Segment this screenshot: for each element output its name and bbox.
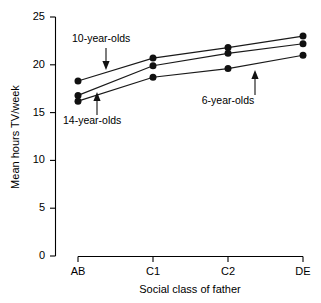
x-tick-label-de: DE <box>295 265 310 277</box>
data-point <box>300 52 307 59</box>
annotation-label-10-year-olds: 10-year-olds <box>72 32 130 44</box>
chart-container: 25 20 15 10 5 0 Mean hours TV/week AB C1… <box>0 0 321 303</box>
x-tick-label-c1: C1 <box>146 265 160 277</box>
data-point <box>150 62 157 69</box>
annotation-arrowhead-10 <box>102 61 109 70</box>
annotation-10-year-olds: 10-year-olds <box>72 32 130 70</box>
data-point <box>300 33 307 40</box>
x-tick-label-ab: AB <box>71 265 86 277</box>
y-axis-title: Mean hours TV/week <box>9 85 21 189</box>
y-tick-label-5: 5 <box>39 201 45 213</box>
annotation-label-14-year-olds: 14-year-olds <box>63 114 121 126</box>
y-tick-label-25: 25 <box>33 10 45 22</box>
series-14-year-olds <box>75 40 307 99</box>
x-axis-title: Social class of father <box>139 283 241 295</box>
y-axis: 25 20 15 10 5 0 Mean hours TV/week <box>9 10 56 261</box>
data-point <box>150 55 157 62</box>
annotation-label-6-year-olds: 6-year-olds <box>202 94 255 106</box>
x-tick-label-c2: C2 <box>221 265 235 277</box>
data-point <box>75 78 82 85</box>
data-point <box>150 74 157 81</box>
y-tick-label-0: 0 <box>39 249 45 261</box>
annotation-6-year-olds: 6-year-olds <box>202 70 259 106</box>
data-point <box>75 98 82 105</box>
line-chart: 25 20 15 10 5 0 Mean hours TV/week AB C1… <box>0 0 321 303</box>
annotation-arrowhead-6 <box>251 70 258 79</box>
y-tick-label-20: 20 <box>33 58 45 70</box>
annotation-arrowhead-14 <box>93 92 100 101</box>
data-point <box>225 65 232 72</box>
x-axis: AB C1 C2 DE Social class of father <box>71 257 311 296</box>
y-tick-label-15: 15 <box>33 106 45 118</box>
data-point <box>300 40 307 47</box>
series-line <box>78 55 303 101</box>
series-line <box>78 44 303 96</box>
data-point <box>225 50 232 57</box>
y-tick-label-10: 10 <box>33 153 45 165</box>
